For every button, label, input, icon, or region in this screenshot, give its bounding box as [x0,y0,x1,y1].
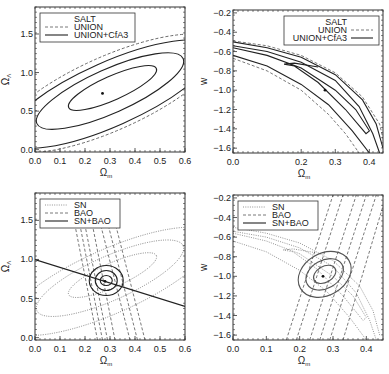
x-tick-label: 0.5 [154,344,167,354]
x-tick-label: 0.4 [129,344,142,354]
x-axis-label: Ωm [298,168,310,180]
y-tick-label: −0.8 [213,66,231,76]
figure: 0.00.10.20.30.40.50.60.00.51.01.5ΩmΩΛSAL… [0,0,389,374]
x-tick-label: 0.3 [104,344,117,354]
legend-label: UNION+CfA3 [293,33,347,43]
y-tick-label: −1.6 [213,330,231,340]
y-tick-label: 1.0 [20,254,33,264]
y-tick-label: −1.4 [213,124,231,134]
legend-label: UNION+CfA3 [74,30,128,40]
legend-label: SN+BAO [74,216,111,226]
legend: SALTUNIONUNION+CfA3 [40,13,135,42]
y-tick-label: −0.4 [213,213,231,223]
y-tick-label: −1.2 [213,291,231,301]
y-axis-label: w [198,77,209,86]
x-tick-label: 0.3 [104,156,117,166]
combined-contour [95,271,117,291]
y-tick-label: 0.0 [20,333,33,343]
y-tick-label: −0.6 [213,232,231,242]
y-tick-label: −1.2 [213,105,231,115]
best-fit-point [101,92,104,95]
y-tick-label: −0.2 [213,193,231,203]
y-tick-label: −1.4 [213,311,231,321]
combined-contour [300,252,349,296]
y-axis-label: ΩΛ [0,74,12,86]
x-tick-label: 0.0 [29,344,42,354]
x-axis-label: Ωm [298,355,310,367]
legend: SNBAOSN+BAO [40,199,120,228]
bao-band [330,195,377,340]
x-tick-label: 0.5 [154,156,167,166]
panel-w-vs-omega-m-sn: 0.00.20.30.4−0.2−0.4−0.6−0.8−1.0−1.2−1.4… [198,8,383,180]
x-tick-label: 0.2 [293,344,306,354]
confidence-contour [64,245,161,306]
x-tick-label: 0.2 [79,156,92,166]
x-axis-label: Ωm [100,167,112,179]
x-tick-label: 0.4 [363,157,376,167]
x-tick-label: 0.2 [79,344,92,354]
sn-contour [233,241,366,340]
y-tick-label: −1.0 [213,271,231,281]
bao-band [343,195,386,340]
x-tick-label: 0.1 [54,344,67,354]
x-tick-label: 0.0 [29,156,42,166]
x-tick-label: 0.0 [227,157,240,167]
panel-omega-lambda-vs-omega-m-sn: 0.00.10.20.30.40.50.60.00.51.01.5ΩmΩΛSAL… [0,7,235,179]
legend: SNBAOSN+BAO [238,201,318,230]
x-tick-label: 0.1 [54,156,67,166]
confidence-contour [28,38,192,143]
plot-area [233,41,383,153]
y-tick-label: 0.5 [20,106,33,116]
y-tick-label: 0.5 [20,294,33,304]
y-tick-label: −1.6 [213,143,231,153]
y-tick-label: −1.0 [213,85,231,95]
legend: SALTUNIONUNION+CfA3 [284,16,379,45]
combined-contour [310,261,339,287]
x-tick-label: 0.6 [179,344,192,354]
confidence-contour [233,55,369,153]
x-tick-label: 0.1 [260,344,273,354]
x-tick-label: 0.2 [295,157,308,167]
y-tick-label: −0.6 [213,47,231,57]
y-axis-label: w [198,263,209,272]
y-tick-label: 1.5 [20,215,33,225]
y-tick-label: −0.4 [213,27,231,37]
legend-label: SN+BAO [272,218,309,228]
confidence-contour [233,58,359,153]
x-tick-label: 0.3 [327,344,340,354]
best-fit-point [322,275,325,278]
y-tick-label: −0.2 [213,8,231,18]
panel-omega-lambda-vs-omega-m-combined: 0.00.10.20.30.40.50.60.00.51.01.5ΩmΩΛSNB… [0,193,225,367]
x-tick-label: 0.6 [179,156,192,166]
x-axis-label: Ωm [100,355,112,367]
x-tick-label: 0.3 [329,157,342,167]
sn-contour [233,231,376,340]
y-axis-label: ΩΛ [0,261,12,273]
best-fit-point [324,89,327,92]
best-fit-point [104,280,107,283]
x-tick-label: 0.4 [360,344,373,354]
y-tick-label: −0.8 [213,252,231,262]
y-tick-label: 1.5 [20,29,33,39]
sn-contour [233,233,366,320]
y-tick-label: 1.0 [20,68,33,78]
x-tick-label: 0.0 [227,344,240,354]
panel-w-vs-omega-m-combined: 0.00.10.20.30.4−0.2−0.4−0.6−0.8−1.0−1.2−… [198,193,386,367]
bao-band [113,213,146,341]
plot-area [0,207,225,357]
y-tick-label: 0.0 [20,145,33,155]
x-tick-label: 0.4 [129,156,142,166]
